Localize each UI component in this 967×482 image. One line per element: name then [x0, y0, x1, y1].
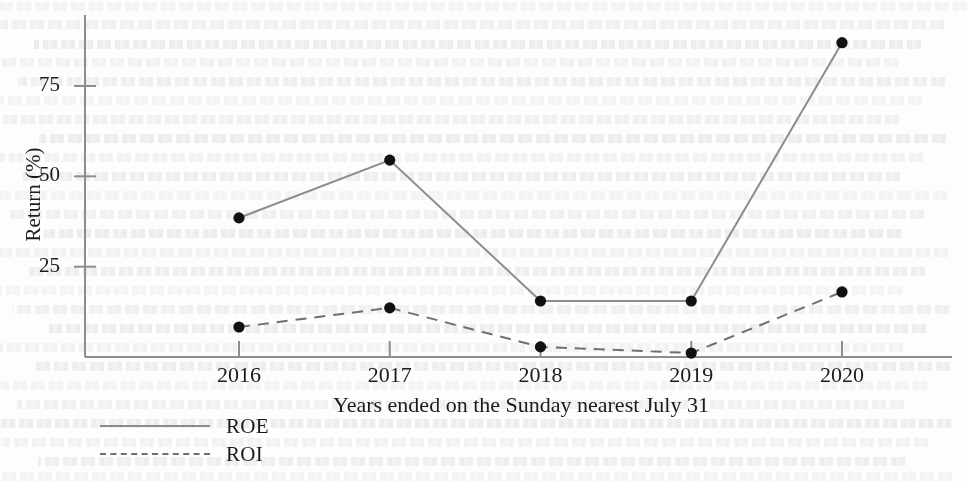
chart-page: 255075 20162017201820192020 Return (%) Y…: [0, 0, 967, 482]
chart-axes: [74, 15, 952, 357]
chart-legend: ROE ROI: [100, 412, 269, 468]
y-axis-tick-label: 75: [16, 72, 60, 97]
chart-markers-group: [233, 37, 847, 359]
x-axis-tick-label: 2020: [797, 362, 887, 388]
data-point-roe-2017: [384, 154, 395, 165]
series-line-roe: [239, 43, 842, 301]
x-axis-tick-label: 2019: [646, 362, 736, 388]
data-point-roi-2020: [836, 286, 847, 297]
x-axis-title: Years ended on the Sunday nearest July 3…: [246, 392, 796, 418]
x-axis-tick-label: 2016: [194, 362, 284, 388]
data-point-roi-2016: [233, 321, 244, 332]
data-point-roe-2016: [233, 212, 244, 223]
legend-item-roe: ROE: [100, 412, 269, 440]
y-axis-tick-label: 25: [16, 253, 60, 278]
legend-swatch-solid-line-icon: [100, 425, 210, 427]
legend-item-roi: ROI: [100, 440, 269, 468]
legend-label-roi: ROI: [226, 442, 263, 467]
y-axis-title: Return (%): [21, 135, 46, 255]
x-axis-tick-label: 2018: [496, 362, 586, 388]
x-axis-tick-label: 2017: [345, 362, 435, 388]
data-point-roi-2019: [686, 347, 697, 358]
data-point-roi-2018: [535, 341, 546, 352]
legend-swatch-dashed-line-icon: [100, 453, 210, 455]
data-point-roe-2019: [686, 295, 697, 306]
data-point-roe-2020: [836, 37, 847, 48]
legend-label-roe: ROE: [226, 414, 269, 439]
data-point-roi-2017: [384, 302, 395, 313]
data-point-roe-2018: [535, 295, 546, 306]
